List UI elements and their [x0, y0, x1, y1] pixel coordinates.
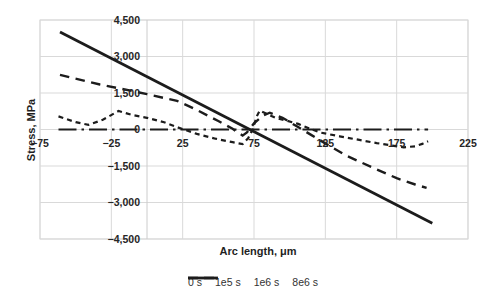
x-axis-title: Arc length, μm	[219, 245, 296, 257]
y-tick-label: 3,000	[114, 50, 140, 62]
y-tick-label: −1,500	[108, 160, 141, 172]
x-tick-label: 225	[459, 137, 477, 149]
y-tick-label: −3,000	[108, 196, 141, 208]
x-tick-label: 125	[317, 137, 335, 149]
y-tick-label: 1,500	[114, 87, 140, 99]
legend-item-8e6s: 8e6 s	[292, 276, 318, 288]
y-tick-label: 4,500	[114, 14, 140, 26]
x-tick-label: 175	[388, 137, 406, 149]
legend-item-1e5s: 1e5 s	[215, 276, 241, 288]
legend-label: 1e6 s	[254, 276, 280, 288]
x-tick-label: −25	[102, 137, 120, 149]
legend-label: 8e6 s	[292, 276, 318, 288]
legend-label: 1e5 s	[215, 276, 241, 288]
y-axis-title: Stress, MPa	[25, 99, 37, 161]
y-tick-label: 0	[134, 123, 140, 135]
legend: 0 s1e5 s1e6 s8e6 s	[188, 276, 318, 288]
chart-figure: 4,5003,0001,5000−1,500−3,000−4,500−75−25…	[0, 0, 500, 300]
legend-line-sample-icon	[188, 276, 218, 280]
y-tick-label: −4,500	[108, 233, 141, 245]
x-tick-label: 25	[177, 137, 189, 149]
legend-item-1e6s: 1e6 s	[254, 276, 280, 288]
x-tick-label: 75	[248, 137, 260, 149]
